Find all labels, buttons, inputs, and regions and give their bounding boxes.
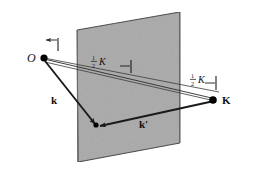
origin-point: [40, 54, 47, 61]
half-K-right-numerator: 1: [191, 73, 194, 79]
half-K-left-denominator: 2: [92, 63, 95, 69]
scattering-diagram: O k k' K 1 2 K 1 2 K: [0, 0, 253, 173]
half-K-right-symbol: K: [197, 74, 206, 85]
k-vector-label: k: [51, 94, 58, 106]
K-point: [209, 96, 217, 104]
origin-label: O: [27, 51, 36, 65]
half-K-left-symbol: K: [98, 56, 107, 67]
half-K-left-numerator: 1: [92, 55, 95, 61]
k-prime-vector-label: k': [139, 118, 148, 130]
figure-root: O k k' K 1 2 K 1 2 K: [0, 0, 253, 173]
half-K-right-denominator: 2: [191, 81, 194, 87]
scatter-vertex-point: [93, 122, 98, 127]
K-vector-label: K: [222, 94, 231, 106]
